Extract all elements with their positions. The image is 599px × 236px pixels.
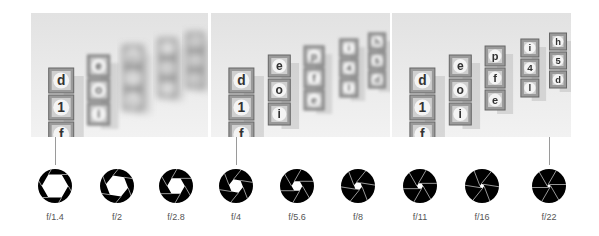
photo-f1-4: d1feoipfei4lh5d: [31, 13, 208, 137]
aperture-icon: [218, 168, 254, 204]
svg-text:f: f: [59, 127, 64, 137]
svg-text:1: 1: [57, 100, 65, 115]
aperture-icon: [158, 168, 194, 204]
svg-text:4: 4: [346, 62, 352, 73]
svg-text:d: d: [192, 75, 198, 85]
svg-text:e: e: [130, 94, 136, 106]
svg-text:d: d: [555, 75, 561, 85]
svg-text:o: o: [457, 83, 464, 97]
svg-text:f: f: [239, 127, 244, 137]
svg-text:4: 4: [527, 62, 533, 73]
svg-text:i: i: [97, 107, 100, 121]
svg-text:i: i: [348, 42, 351, 53]
aperture-label: f/2: [87, 212, 147, 222]
svg-text:o: o: [95, 83, 102, 97]
svg-text:5: 5: [555, 56, 560, 66]
svg-text:i: i: [166, 42, 169, 53]
svg-text:e: e: [492, 94, 498, 106]
svg-text:d: d: [237, 73, 245, 88]
aperture-icon: [464, 168, 500, 204]
aperture-label: f/4: [206, 212, 266, 222]
svg-text:p: p: [311, 50, 318, 62]
svg-text:e: e: [457, 59, 464, 73]
svg-text:5: 5: [374, 56, 379, 66]
svg-text:1: 1: [419, 100, 427, 115]
aperture-label: f/22: [519, 212, 579, 222]
aperture-label: f/8: [328, 212, 388, 222]
aperture-icon: [99, 168, 135, 204]
connector-line: [549, 137, 550, 165]
svg-text:h: h: [555, 37, 561, 47]
aperture-icon: [279, 168, 315, 204]
svg-text:h: h: [374, 37, 380, 47]
svg-text:4: 4: [165, 62, 171, 73]
svg-text:5: 5: [193, 56, 198, 66]
aperture-label: f/1.4: [25, 212, 85, 222]
svg-text:d: d: [418, 73, 426, 88]
aperture-label: f/16: [452, 212, 512, 222]
aperture-label: f/2.8: [146, 212, 206, 222]
svg-text:p: p: [130, 50, 137, 62]
connector-line: [55, 137, 56, 165]
connector-line: [236, 137, 237, 165]
svg-text:e: e: [276, 59, 283, 73]
photo-f4: d1feoipfei4lh5d: [211, 13, 390, 137]
svg-text:l: l: [166, 82, 169, 93]
svg-text:p: p: [492, 50, 499, 62]
aperture-label: f/5.6: [267, 212, 327, 222]
svg-text:l: l: [348, 82, 351, 93]
svg-text:e: e: [311, 94, 317, 106]
svg-text:f: f: [131, 72, 135, 84]
svg-text:f: f: [420, 127, 425, 137]
aperture-icon: [531, 168, 567, 204]
aperture-label: f/11: [390, 212, 450, 222]
svg-text:l: l: [529, 82, 532, 93]
photo-f22: d1feoipfei4lh5d: [392, 13, 571, 137]
svg-text:d: d: [374, 75, 380, 85]
aperture-icon: [340, 168, 376, 204]
svg-text:f: f: [312, 72, 316, 84]
aperture-icon: [37, 168, 73, 204]
svg-text:h: h: [192, 37, 198, 47]
svg-text:i: i: [459, 107, 462, 121]
svg-text:e: e: [95, 59, 102, 73]
aperture-icon: [402, 168, 438, 204]
svg-text:i: i: [278, 107, 281, 121]
svg-text:f: f: [493, 72, 497, 84]
svg-text:1: 1: [238, 100, 246, 115]
svg-text:d: d: [57, 73, 65, 88]
svg-text:i: i: [529, 42, 532, 53]
svg-text:o: o: [276, 83, 283, 97]
